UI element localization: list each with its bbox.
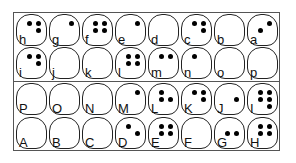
cell-L: L: [148, 83, 179, 115]
dot-pattern: [125, 20, 141, 40]
cell-letter: n: [184, 66, 191, 79]
dot-icon: [135, 61, 140, 66]
cell-c: c: [181, 14, 212, 46]
dot-icon: [159, 54, 164, 59]
row-1: hgfedcba: [15, 14, 279, 46]
dot-icon: [258, 97, 263, 102]
dot-icon: [258, 124, 263, 129]
dot-pattern: [92, 123, 108, 143]
cell-letter: k: [85, 66, 92, 79]
dot-pattern: [257, 123, 273, 143]
dot-pattern: [158, 89, 174, 109]
dot-pattern: [125, 123, 141, 143]
cell-letter: A: [19, 136, 28, 149]
dot-icon: [135, 90, 140, 95]
dot-icon: [234, 131, 239, 136]
dot-icon: [267, 90, 272, 95]
cell-N: N: [82, 83, 113, 115]
dot-pattern: [59, 123, 75, 143]
cell-letter: G: [217, 136, 227, 149]
dot-pattern: [224, 89, 240, 109]
cell-letter: i: [19, 66, 22, 79]
dot-pattern: [191, 20, 207, 40]
cell-letter: h: [19, 33, 26, 46]
dot-icon: [267, 21, 272, 26]
dot-icon: [267, 131, 272, 136]
cell-letter: O: [52, 102, 62, 115]
cell-p: p: [247, 47, 278, 79]
cell-o: o: [214, 47, 245, 79]
dot-icon: [93, 28, 98, 33]
dot-icon: [27, 21, 32, 26]
dot-pattern: [224, 20, 240, 40]
cell-j: j: [49, 47, 80, 79]
cell-J: J: [214, 83, 245, 115]
cell-C: C: [82, 117, 113, 149]
cell-l: l: [115, 47, 146, 79]
dot-pattern: [257, 20, 273, 40]
cell-M: M: [115, 83, 146, 115]
dot-icon: [192, 21, 197, 26]
dot-pattern: [26, 123, 42, 143]
dot-icon: [159, 124, 164, 129]
cell-letter: f: [85, 33, 89, 46]
dot-icon: [267, 124, 272, 129]
dot-pattern: [92, 53, 108, 73]
dot-pattern: [26, 53, 42, 73]
dot-icon: [135, 21, 140, 26]
dot-icon: [192, 90, 197, 95]
cell-a: a: [247, 14, 278, 46]
dot-pattern: [26, 89, 42, 109]
dot-icon: [93, 21, 98, 26]
cell-K: K: [181, 83, 212, 115]
cell-letter: P: [19, 102, 28, 115]
dot-icon: [102, 21, 107, 26]
row-4: ABCDEFGH: [15, 117, 279, 149]
cell-H: H: [247, 117, 278, 149]
cell-letter: H: [250, 136, 259, 149]
dot-pattern: [92, 89, 108, 109]
dot-icon: [168, 131, 173, 136]
dot-icon: [258, 28, 263, 33]
dot-pattern: [257, 89, 273, 109]
cell-letter: I: [250, 102, 254, 115]
dot-icon: [126, 124, 131, 129]
dot-pattern: [92, 20, 108, 40]
dot-icon: [201, 90, 206, 95]
cell-letter: d: [151, 33, 158, 46]
row-3: PONMLKJI: [15, 83, 279, 115]
cell-letter: l: [118, 66, 121, 79]
dot-pattern: [158, 123, 174, 143]
dot-icon: [168, 97, 173, 102]
cell-letter: B: [52, 136, 61, 149]
dot-icon: [69, 21, 74, 26]
cell-letter: J: [217, 102, 224, 115]
dot-icon: [135, 131, 140, 136]
cell-letter: M: [118, 102, 129, 115]
cell-m: m: [148, 47, 179, 79]
cell-letter: o: [217, 66, 224, 79]
dot-icon: [234, 97, 239, 102]
cell-i: i: [16, 47, 47, 79]
cell-f: f: [82, 14, 113, 46]
dot-icon: [201, 28, 206, 33]
dot-pattern: [26, 20, 42, 40]
dot-pattern: [191, 89, 207, 109]
dot-icon: [126, 54, 131, 59]
dot-pattern: [191, 53, 207, 73]
cell-letter: b: [217, 33, 224, 46]
cell-letter: K: [184, 102, 193, 115]
dot-icon: [267, 104, 272, 109]
dot-pattern: [224, 53, 240, 73]
cell-k: k: [82, 47, 113, 79]
cell-F: F: [181, 117, 212, 149]
dot-icon: [258, 90, 263, 95]
row-2: ijklmnop: [15, 47, 279, 79]
cell-letter: p: [250, 66, 257, 79]
cell-h: h: [16, 14, 47, 46]
cell-n: n: [181, 47, 212, 79]
cell-E: E: [148, 117, 179, 149]
lowercase-section: hgfedcba ijklmnop: [14, 13, 279, 81]
dot-pattern: [158, 20, 174, 40]
dot-pattern: [59, 20, 75, 40]
